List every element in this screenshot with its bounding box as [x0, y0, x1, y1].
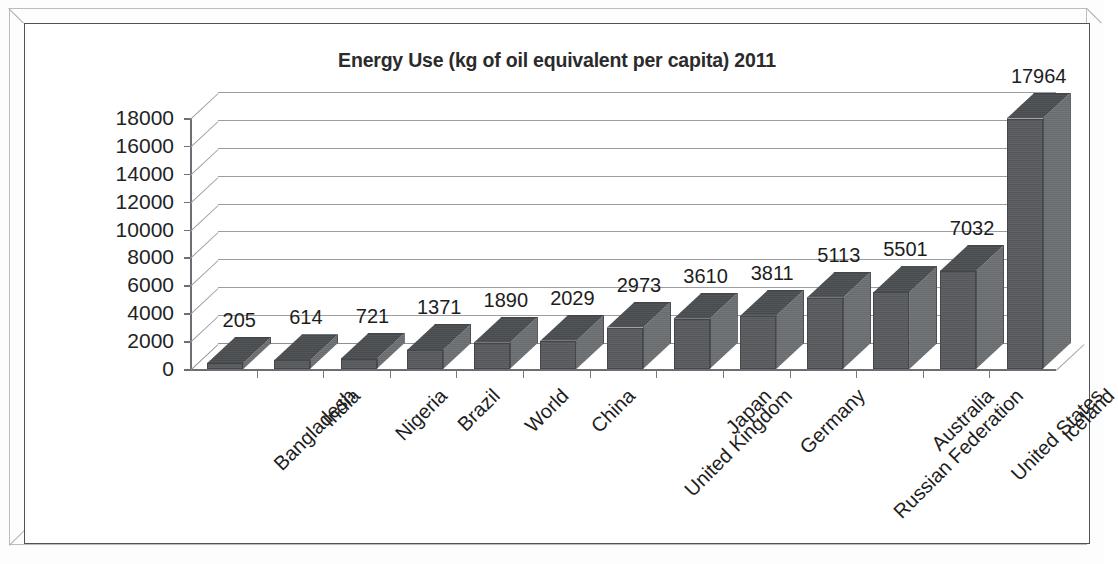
gridline — [218, 148, 1056, 149]
bar-front-face — [807, 298, 843, 369]
category-label: World — [521, 385, 572, 436]
bar-column[interactable] — [274, 334, 338, 369]
value-axis-label: 0 — [62, 358, 174, 379]
value-axis-label: 8000 — [62, 246, 174, 267]
value-axis-label: 4000 — [62, 302, 174, 323]
category-label: Brazil — [454, 385, 504, 435]
gridline-riser — [190, 121, 219, 148]
bar-front-face — [407, 350, 443, 369]
gridline-riser — [190, 260, 219, 287]
value-axis-label: 2000 — [62, 330, 174, 351]
bar-front-face — [674, 319, 710, 369]
bar-column[interactable] — [807, 272, 871, 369]
category-label: Germany — [796, 385, 868, 457]
value-axis-tick — [184, 174, 190, 176]
bar-front-face — [540, 341, 576, 369]
bar-front-face — [740, 316, 776, 369]
bar-front-face — [1007, 119, 1043, 369]
value-axis-label: 12000 — [62, 191, 174, 212]
category-axis-tick — [923, 370, 924, 378]
category-axis-tick — [989, 370, 990, 378]
value-axis-tick — [184, 341, 190, 343]
gridline-riser — [190, 204, 219, 231]
bar-front-face — [274, 360, 310, 369]
chart-plot-area: 1800016000140001200010000800060004000200… — [24, 23, 1090, 544]
gridline-riser — [190, 93, 219, 120]
value-axis-tick — [184, 146, 190, 148]
value-axis-label: 6000 — [62, 274, 174, 295]
value-axis-tick — [184, 118, 190, 120]
category-label: India — [319, 385, 364, 430]
gridline-riser — [190, 177, 219, 204]
value-axis-tick — [184, 369, 190, 371]
bar-front-face — [474, 343, 510, 369]
category-label: Nigeria — [391, 385, 450, 444]
bar-front-face — [940, 271, 976, 369]
bar-column[interactable] — [940, 245, 1004, 369]
category-label: Russian Federation — [890, 385, 1027, 522]
bar-value-label: 17964 — [985, 66, 1093, 86]
frame-corner-top-right — [1086, 8, 1102, 24]
value-axis-line — [190, 118, 192, 370]
value-axis-label: 16000 — [62, 135, 174, 156]
value-axis-label: 10000 — [62, 219, 174, 240]
category-axis-tick — [323, 370, 324, 378]
category-axis-tick — [656, 370, 657, 378]
bar-column[interactable] — [674, 293, 738, 369]
bar-side-face — [1043, 93, 1071, 369]
bar-column[interactable] — [1007, 93, 1071, 369]
category-axis-tick — [790, 370, 791, 378]
category-axis-tick — [723, 370, 724, 378]
energy-use-chart: Energy Use (kg of oil equivalent per cap… — [24, 23, 1090, 544]
category-axis-tick — [856, 370, 857, 378]
bar-column[interactable] — [341, 333, 405, 369]
bar-front-face — [341, 359, 377, 369]
gridline-riser — [190, 149, 219, 176]
gridline — [218, 92, 1056, 93]
value-axis-tick — [184, 202, 190, 204]
bar-column[interactable] — [873, 266, 937, 369]
category-label: China — [588, 385, 639, 436]
bar-column[interactable] — [740, 290, 804, 369]
bar-column[interactable] — [540, 315, 604, 369]
value-axis-label: 14000 — [62, 163, 174, 184]
gridline — [218, 176, 1056, 177]
category-axis-tick — [390, 370, 391, 378]
gridline-riser — [190, 232, 219, 259]
category-axis-line — [190, 369, 1056, 371]
category-axis-tick — [456, 370, 457, 378]
bar-front-face — [873, 292, 909, 369]
bar-column[interactable] — [407, 324, 471, 369]
bar-front-face — [207, 363, 243, 369]
category-axis-tick — [523, 370, 524, 378]
value-axis-label: 18000 — [62, 107, 174, 128]
gridline — [218, 204, 1056, 205]
bar-column[interactable] — [607, 302, 671, 369]
category-axis-tick — [590, 370, 591, 378]
bar-front-face — [607, 328, 643, 369]
bar-column[interactable] — [207, 337, 271, 369]
value-axis-tick — [184, 257, 190, 259]
category-label: United Kingdom — [681, 385, 796, 500]
value-axis-tick — [184, 230, 190, 232]
bar-column[interactable] — [474, 317, 538, 369]
category-axis-tick — [257, 370, 258, 378]
gridline — [218, 120, 1056, 121]
value-axis-tick — [184, 285, 190, 287]
gridline — [218, 259, 1056, 260]
